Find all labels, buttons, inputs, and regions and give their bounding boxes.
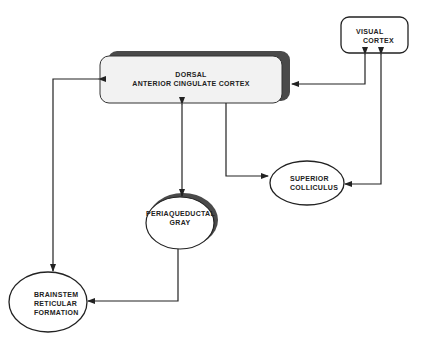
- sc-label-line2: COLLICULUS: [290, 183, 338, 192]
- dacc-label-line2: ANTERIOR CINGULATE CORTEX: [100, 79, 282, 88]
- pag-label: PERIAQUEDUCTAL GRAY: [146, 209, 214, 227]
- visual-cortex-label-line2: CORTEX: [356, 36, 394, 45]
- edge-pag-to-brainstem: [88, 249, 178, 301]
- visual-cortex-label-line1: VISUAL: [356, 27, 394, 36]
- brainstem-label-line1: BRAINSTEM: [34, 290, 79, 299]
- brainstem-label: BRAINSTEM RETICULAR FORMATION: [34, 290, 79, 317]
- edge-dacc-to-sc: [226, 103, 268, 176]
- edge-visual-to-dacc: [292, 54, 365, 84]
- dacc-label: DORSAL ANTERIOR CINGULATE CORTEX: [100, 70, 282, 88]
- visual-cortex-label: VISUAL CORTEX: [356, 27, 394, 45]
- edge-dacc-to-brainstem: [53, 79, 99, 271]
- superior-colliculus-label: SUPERIOR COLLICULUS: [290, 174, 338, 192]
- pag-label-line2: GRAY: [146, 218, 214, 227]
- brainstem-label-line3: FORMATION: [34, 308, 79, 317]
- pag-label-line1: PERIAQUEDUCTAL: [146, 209, 214, 218]
- brainstem-label-line2: RETICULAR: [34, 299, 79, 308]
- sc-label-line1: SUPERIOR: [290, 174, 338, 183]
- dacc-label-line1: DORSAL: [100, 70, 282, 79]
- edge-visual-to-sc: [345, 54, 381, 184]
